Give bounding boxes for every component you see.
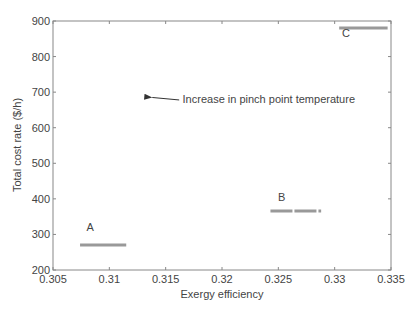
x-tick-label: 0.335: [377, 273, 405, 285]
chart-canvas: 0.3050.310.3150.320.3250.330.335 2003004…: [0, 0, 417, 315]
arrow-icon: [152, 97, 179, 99]
y-tick-label: 900: [32, 15, 50, 27]
annotation-layer: Increase in pinch point temperature: [152, 93, 355, 105]
y-axis-label: Total cost rate ($/h): [11, 98, 23, 192]
y-tick-label: 700: [32, 86, 50, 98]
y-tick-label: 400: [32, 193, 50, 205]
annotation-text: Increase in pinch point temperature: [183, 93, 355, 105]
y-tick-label: 600: [32, 122, 50, 134]
y-tick-label: 200: [32, 264, 50, 276]
series-layer: [80, 28, 388, 245]
x-tick-label: 0.325: [265, 273, 293, 285]
y-tick-label: 800: [32, 51, 50, 63]
y-tick-label: 500: [32, 157, 50, 169]
x-tick-label: 0.32: [211, 273, 232, 285]
point-labels: ABC: [87, 27, 350, 233]
plot-area: [53, 21, 391, 270]
y-tick-label: 300: [32, 228, 50, 240]
y-axis-ticks: 200300400500600700800900: [32, 15, 391, 276]
point-label-c: C: [342, 27, 350, 39]
x-tick-label: 0.315: [152, 273, 180, 285]
x-tick-label: 0.31: [99, 273, 120, 285]
x-tick-label: 0.33: [324, 273, 345, 285]
point-label-b: B: [278, 191, 285, 203]
point-label-a: A: [87, 221, 95, 233]
x-axis-label: Exergy efficiency: [181, 288, 264, 300]
